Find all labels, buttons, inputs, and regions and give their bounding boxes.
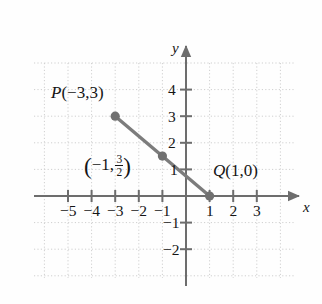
point-midpoint [158,152,167,161]
midpoint-open-paren: ( [84,154,92,179]
midpoint-close-paren: ) [123,154,131,179]
x-tick-label-1: 1 [206,203,214,219]
point-label-q-close: ) [252,161,258,180]
x-tick-label-neg3: −3 [107,203,124,219]
midpoint-x-value: −1, [92,155,114,174]
point-q [205,191,214,200]
y-tick-label-1: 1 [170,162,178,178]
point-label-p-close: ) [98,83,104,102]
point-label-q-coords: 1,0 [231,161,252,180]
y-tick-label-neg1: −1 [163,215,180,231]
point-label-p: P(−3,3) [51,84,104,101]
x-tick-label-neg4: −4 [84,203,101,219]
point-p [111,112,120,121]
point-label-p-coords: −3,3 [67,83,98,102]
x-tick-label-2: 2 [230,203,238,219]
point-label-q-name: Q [213,161,225,180]
x-tick-label-3: 3 [253,203,261,219]
point-label-midpoint: (−1, 32) [84,154,131,179]
y-tick-label-neg2: −2 [163,242,180,258]
y-tick-label-3: 3 [168,109,176,125]
coordinate-plane-figure: −5 −4 −3 −2 −1 1 2 3 4 3 2 1 −1 −2 x y P… [0,0,322,304]
y-axis-label: y [172,41,179,56]
y-tick-label-2: 2 [168,135,176,151]
x-axis-label: x [303,200,310,215]
y-tick-label-4: 4 [168,82,176,98]
point-label-q: Q(1,0) [213,162,258,179]
x-tick-label-neg2: −2 [131,203,148,219]
graph-canvas [0,0,322,304]
x-tick-label-neg5: −5 [60,203,77,219]
point-label-p-name: P [51,83,61,102]
